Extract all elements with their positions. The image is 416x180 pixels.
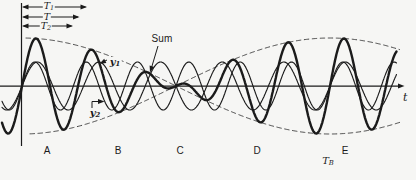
region-label-e: E (341, 146, 350, 156)
wave-y2-label: y2 (89, 108, 102, 119)
beat-period-label: TB (321, 156, 335, 167)
wave-y2-sub: 2 (96, 111, 101, 119)
beats-plot-canvas (0, 0, 416, 180)
region-label-a: A (43, 146, 52, 156)
beat-period-sub: B (329, 159, 334, 167)
time-axis-arrowhead (398, 84, 405, 89)
beat-period-base: T (322, 155, 329, 166)
region-label-b: B (114, 146, 123, 156)
region-label-d: D (252, 146, 261, 156)
t-arrow-right-head (73, 15, 80, 20)
period-t2-sub: 2 (47, 24, 51, 32)
t-arrow-left-head (22, 15, 29, 20)
t1-arrow-right-head (81, 5, 88, 10)
y1-pointer-head (100, 59, 107, 64)
region-label-c: C (175, 146, 184, 156)
t1-arrow-left-head (22, 5, 29, 10)
period-t2-label: T2 (40, 21, 52, 32)
t2-arrow-right-head (67, 24, 74, 29)
t2-arrow-left-head (22, 24, 29, 29)
sum-label: Sum (150, 34, 173, 44)
time-axis-label: t (402, 92, 408, 103)
wave-y1-label: y1 (109, 57, 122, 68)
beats-diagram: T1 T T2 Sum y1 y2 A B C D E TB t (0, 0, 416, 180)
wave-y1-sub: 1 (116, 60, 121, 68)
